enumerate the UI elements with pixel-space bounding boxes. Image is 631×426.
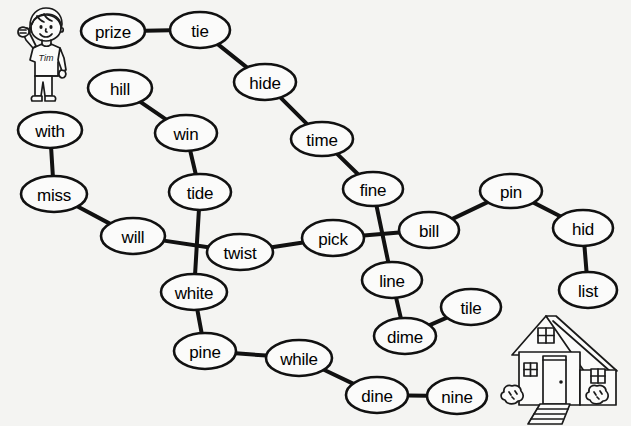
node-label-with: with <box>34 122 64 141</box>
edge-miss-will <box>78 207 110 224</box>
node-label-prize: prize <box>95 23 131 42</box>
node-label-time: time <box>306 131 337 150</box>
edge-win-tide <box>190 151 196 174</box>
word-node-hill[interactable]: hill <box>88 70 152 106</box>
node-label-hide: hide <box>249 74 280 93</box>
node-label-hid: hid <box>572 220 594 239</box>
node-label-white: white <box>174 284 214 303</box>
word-node-while[interactable]: while <box>266 340 332 376</box>
word-node-pine[interactable]: pine <box>174 333 236 369</box>
edge-line-dime <box>396 298 401 318</box>
word-node-white[interactable]: white <box>161 274 227 310</box>
word-node-dime[interactable]: dime <box>374 318 436 354</box>
node-label-win: win <box>173 125 199 144</box>
boy-waving-illustration: Tim <box>18 8 66 101</box>
word-node-tile[interactable]: tile <box>441 289 501 325</box>
edge-white-pine <box>197 310 201 333</box>
edge-pin-hid <box>534 203 561 217</box>
node-label-pin: pin <box>500 183 522 202</box>
edge-hid-list <box>584 246 586 272</box>
edge-time-fine <box>337 154 358 174</box>
node-label-bill: bill <box>419 222 439 241</box>
word-node-twist[interactable]: twist <box>207 234 273 270</box>
node-label-dime: dime <box>387 328 423 347</box>
word-node-pin[interactable]: pin <box>480 174 542 208</box>
word-node-nine[interactable]: nine <box>427 378 487 414</box>
word-node-will[interactable]: will <box>101 218 165 254</box>
word-node-fine[interactable]: fine <box>343 172 403 206</box>
shirt-label: Tim <box>39 53 54 63</box>
word-node-dine[interactable]: dine <box>346 377 408 413</box>
word-node-tie[interactable]: tie <box>170 12 230 48</box>
word-node-bill[interactable]: bill <box>399 212 459 248</box>
edge-twist-pick <box>272 243 303 248</box>
edge-with-miss <box>51 148 53 176</box>
node-label-hill: hill <box>110 80 130 99</box>
edge-will-twist <box>164 241 208 248</box>
node-label-pick: pick <box>318 230 348 249</box>
node-label-tide: tide <box>187 184 214 203</box>
node-label-list: list <box>578 282 598 301</box>
edge-bill-pin <box>453 202 488 219</box>
word-node-hid[interactable]: hid <box>553 210 613 246</box>
node-label-tile: tile <box>461 299 482 318</box>
edge-tie-hide <box>218 44 247 67</box>
node-label-dine: dine <box>361 387 392 406</box>
node-label-tie: tie <box>191 22 208 41</box>
edge-pine-while <box>236 353 267 355</box>
node-label-pine: pine <box>189 343 220 362</box>
word-node-miss[interactable]: miss <box>21 176 87 212</box>
node-label-fine: fine <box>360 181 387 200</box>
node-label-will: will <box>121 228 145 247</box>
node-label-while: while <box>279 350 318 369</box>
node-label-miss: miss <box>37 186 71 205</box>
word-node-list[interactable]: list <box>559 272 617 308</box>
edge-dime-tile <box>430 318 447 326</box>
word-node-hide[interactable]: hide <box>234 64 296 100</box>
edge-hide-time <box>281 98 308 125</box>
edge-tide-white <box>195 210 199 274</box>
worksheet-canvas: Tim <box>0 0 631 426</box>
node-label-nine: nine <box>441 388 472 407</box>
word-web-diagram: Tim <box>0 0 631 426</box>
word-node-pick[interactable]: pick <box>302 220 364 256</box>
node-label-line: line <box>379 272 405 291</box>
word-node-win[interactable]: win <box>155 115 217 151</box>
edge-hill-win <box>140 102 166 119</box>
house-illustration <box>501 316 617 424</box>
word-node-time[interactable]: time <box>291 122 353 156</box>
node-label-twist: twist <box>223 244 256 263</box>
edge-while-dine <box>324 370 353 384</box>
word-node-line[interactable]: line <box>362 262 422 298</box>
word-node-with[interactable]: with <box>18 112 82 148</box>
word-node-prize[interactable]: prize <box>81 14 145 48</box>
word-node-tide[interactable]: tide <box>169 174 231 210</box>
